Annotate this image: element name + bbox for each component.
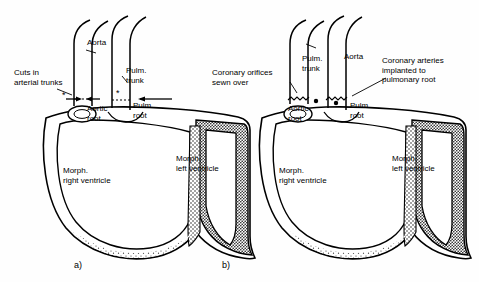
label-b-aortic-root: Aortic root — [288, 104, 308, 123]
label-b-coronary-orifices-sewn-over: Coronary orifices sewn over — [212, 68, 272, 87]
label-b-pulm-trunk: Pulm. trunk — [302, 54, 322, 73]
label-a-aorta: Aorta — [87, 38, 106, 48]
label-a-cuts-in-arterial-trunks: Cuts in arterial trunks — [14, 68, 62, 87]
label-b-morph-left-ventricle: Morph. left ventricle — [392, 154, 435, 173]
label-a-morph-right-ventricle: Morph. right ventricle — [63, 166, 111, 185]
panel-caption-a: a) — [74, 260, 82, 270]
label-b-coronary-arteries-implanted: Coronary arteries implanted to pulmonary… — [382, 56, 444, 85]
aorta-right-wall-a — [92, 21, 108, 106]
panel-caption-b: b) — [222, 260, 230, 270]
ventricular-septum-a — [188, 126, 200, 246]
figure-canvas: * * — [0, 0, 479, 282]
label-a-aortic-root: Aortic root — [87, 104, 107, 123]
pulm-trunk-left-wall-b — [328, 16, 344, 108]
label-b-pulm-root: Pulm. root — [350, 101, 370, 120]
pulm-trunk-left-wall-a — [112, 16, 128, 108]
pulm-trunk-right-wall-b — [346, 17, 362, 110]
aorta-suture-line-b — [288, 97, 309, 100]
label-b-aorta: Aorta — [344, 52, 363, 62]
asterisk-right-a: * — [116, 88, 120, 98]
label-a-pulm-root: Pulm. root — [133, 101, 153, 120]
label-a-pulm-trunk: Pulm. trunk — [126, 66, 146, 85]
coronary-button-left-b — [314, 99, 318, 103]
coronary-button-right-b — [334, 101, 338, 105]
pulm-trunk-right-wall-a — [130, 17, 146, 110]
label-a-morph-left-ventricle: Morph. left ventricle — [176, 154, 219, 173]
ventricular-septum-b — [404, 126, 416, 246]
label-b-morph-right-ventricle: Morph. right ventricle — [279, 166, 327, 185]
panel-b-drawing — [259, 16, 471, 259]
heart-diagram-svg: * * — [0, 0, 479, 282]
asterisk-left-a: * — [62, 90, 66, 100]
pulm-suture-line-b — [326, 97, 347, 100]
aorta-left-wall-a — [74, 20, 90, 106]
panel-a-drawing: * * — [43, 16, 255, 259]
